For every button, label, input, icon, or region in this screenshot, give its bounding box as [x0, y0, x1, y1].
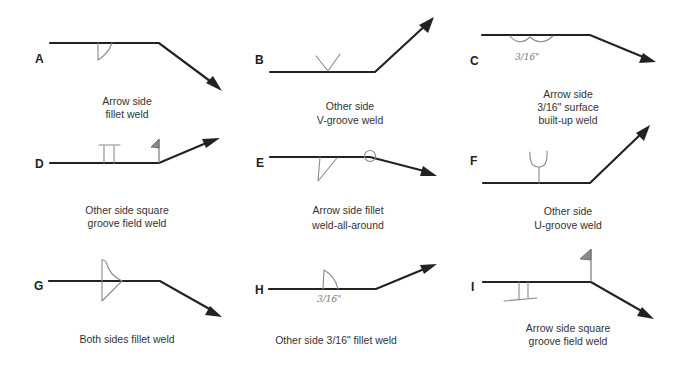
panel-letter: F: [470, 154, 477, 168]
caption-line-1: Arrow side fillet: [312, 204, 383, 216]
panel-d: D Other side square groove field weld: [35, 138, 220, 229]
panel-i: I Arrow side square groove field weld: [471, 249, 654, 347]
caption-line-1: Other side 3/16" fillet weld: [275, 334, 397, 346]
reference-line-with-arrow: [50, 43, 222, 91]
reference-line-with-arrow: [483, 125, 650, 183]
field-weld-flag-icon: [580, 249, 591, 282]
panel-h: H 3/16" Other side 3/16" fillet weld: [255, 264, 437, 346]
weld-symbols-diagram: A Arrow side fillet weld B Other side V-…: [0, 0, 688, 371]
caption-line-1: Other side: [326, 100, 375, 112]
caption-line-1: Arrow side square: [526, 322, 611, 334]
v-groove-weld-symbol: [316, 54, 340, 71]
caption-line-2: 3/16" surface: [537, 101, 599, 113]
weld-size-dimension: 3/16": [515, 52, 539, 62]
panel-letter: B: [255, 53, 264, 67]
fillet-weld-symbol: [98, 43, 112, 60]
fillet-weld-symbol: [323, 270, 338, 289]
panel-letter: D: [35, 157, 44, 171]
reference-line-with-arrow: [49, 281, 222, 317]
caption-line-1: Both sides fillet weld: [79, 333, 174, 345]
panel-a: A Arrow side fillet weld: [35, 43, 222, 120]
caption-line-1: Arrow side: [102, 95, 152, 107]
panel-letter: G: [34, 279, 43, 293]
reference-line-with-arrow: [270, 157, 437, 176]
field-weld-flag-icon: [151, 139, 159, 163]
caption-line-2: fillet weld: [105, 108, 148, 120]
panel-letter: I: [471, 280, 474, 294]
caption-line-2: groove field weld: [88, 217, 167, 229]
surfacing-weld-symbol: [510, 36, 553, 42]
caption-line-1: Other side: [544, 205, 593, 217]
panel-f: F Other side U-groove weld: [470, 125, 650, 231]
square-groove-weld-symbol: [99, 145, 120, 163]
caption-line-2: V-groove weld: [317, 114, 384, 126]
caption-line-2: weld-all-around: [311, 219, 384, 231]
caption-line-1: Arrow side: [543, 88, 593, 100]
panel-b: B Other side V-groove weld: [255, 17, 434, 126]
reference-line-with-arrow: [269, 264, 437, 289]
reference-line-with-arrow: [50, 138, 220, 163]
u-groove-weld-symbol: [530, 151, 547, 183]
panel-letter: C: [470, 54, 479, 68]
fillet-weld-symbol: [318, 157, 337, 181]
weld-size-dimension: 3/16": [317, 294, 341, 304]
panel-letter: H: [255, 283, 264, 297]
reference-line-with-arrow: [270, 17, 434, 72]
caption-line-2: U-groove weld: [534, 219, 602, 231]
square-groove-weld-symbol: [504, 282, 537, 301]
panel-letter: A: [35, 52, 44, 66]
caption-line-3: built-up weld: [539, 114, 598, 126]
caption-line-1: Other side square: [85, 204, 169, 216]
panel-e: E Arrow side fillet weld-all-around: [256, 151, 437, 232]
panel-g: G Both sides fillet weld: [34, 260, 222, 345]
reference-line-with-arrow: [482, 35, 656, 63]
panel-letter: E: [256, 156, 264, 170]
panel-c: C 3/16" Arrow side 3/16" surface built-u…: [470, 35, 656, 126]
caption-line-2: groove field weld: [529, 335, 608, 347]
